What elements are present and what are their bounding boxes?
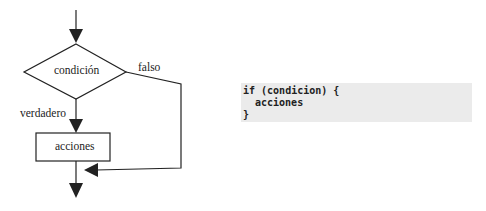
code-line-if: if (condicion) { xyxy=(243,85,472,97)
exit-arrowhead-icon xyxy=(69,183,83,198)
code-line-body: acciones xyxy=(243,97,472,109)
condition-label: condición xyxy=(54,64,99,76)
true-label: verdadero xyxy=(20,107,66,119)
action-label: acciones xyxy=(55,140,95,152)
code-line-close: } xyxy=(243,109,472,121)
false-arrowhead-icon xyxy=(84,163,98,177)
true-arrowhead-icon xyxy=(69,119,83,133)
false-label: falso xyxy=(138,61,160,73)
code-block: if (condicion) {acciones} xyxy=(241,83,472,122)
entry-arrowhead-icon xyxy=(69,29,83,43)
flowchart xyxy=(0,0,200,211)
